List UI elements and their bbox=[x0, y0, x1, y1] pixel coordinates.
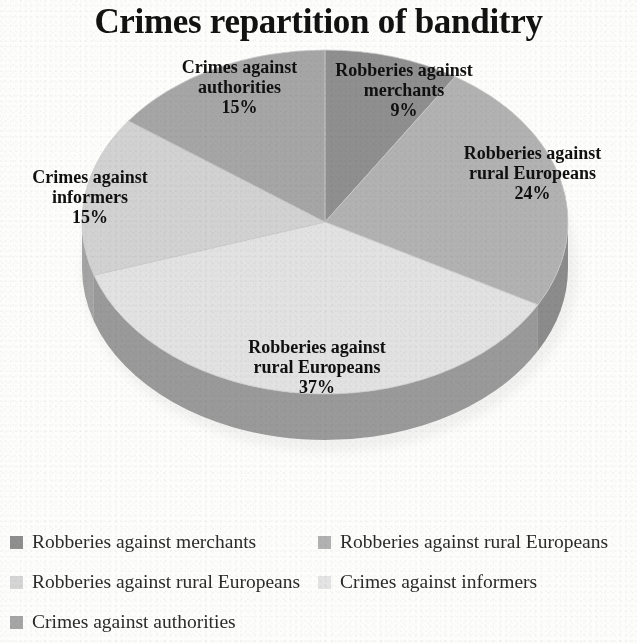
data-label-percent: 9% bbox=[306, 100, 502, 120]
legend-label: Crimes against informers bbox=[340, 572, 537, 592]
legend-item-robberies-against-rural-europeans-2[interactable]: Robberies against rural Europeans bbox=[10, 572, 300, 592]
data-label-percent: 37% bbox=[196, 377, 438, 397]
legend-label: Crimes against authorities bbox=[32, 612, 236, 632]
legend-row: Crimes against informers bbox=[318, 569, 537, 595]
legend-row: Robberies against rural Europeans bbox=[10, 569, 300, 595]
chart-legend: Robberies against merchants Robberies ag… bbox=[0, 525, 637, 644]
data-label-robberies-against-merchants: Robberies against merchants 9% bbox=[306, 60, 502, 120]
data-label-robberies-rural-europeans-37: Robberies against rural Europeans 37% bbox=[196, 337, 438, 397]
legend-item-crimes-against-authorities[interactable]: Crimes against authorities bbox=[10, 612, 236, 632]
data-label-percent: 15% bbox=[0, 207, 186, 227]
data-label-line1: Robberies against bbox=[335, 60, 473, 80]
pie-chart-figure: Crimes repartition of banditry Crimes ag… bbox=[0, 0, 637, 644]
legend-row: Crimes against authorities bbox=[10, 609, 236, 635]
legend-swatch-icon bbox=[10, 616, 23, 629]
legend-row: Robberies against merchants bbox=[10, 529, 256, 555]
legend-label: Robberies against merchants bbox=[32, 532, 256, 552]
legend-item-robberies-against-merchants[interactable]: Robberies against merchants bbox=[10, 532, 256, 552]
legend-item-robberies-against-rural-europeans-1[interactable]: Robberies against rural Europeans bbox=[318, 532, 608, 552]
legend-swatch-icon bbox=[10, 576, 23, 589]
data-label-line2: authorities bbox=[198, 77, 281, 97]
legend-swatch-icon bbox=[318, 536, 331, 549]
legend-label: Robberies against rural Europeans bbox=[340, 532, 608, 552]
legend-swatch-icon bbox=[318, 576, 331, 589]
data-label-line2: merchants bbox=[364, 80, 445, 100]
data-label-line2: rural Europeans bbox=[469, 163, 596, 183]
data-label-line1: Crimes against bbox=[182, 57, 298, 77]
data-label-crimes-against-informers: Crimes against informers 15% bbox=[0, 167, 186, 227]
data-label-line1: Robberies against bbox=[248, 337, 386, 357]
data-label-robberies-rural-europeans-24: Robberies against rural Europeans 24% bbox=[428, 143, 637, 203]
data-label-percent: 24% bbox=[428, 183, 637, 203]
data-label-line2: rural Europeans bbox=[253, 357, 380, 377]
legend-swatch-icon bbox=[10, 536, 23, 549]
legend-label: Robberies against rural Europeans bbox=[32, 572, 300, 592]
data-label-line1: Crimes against bbox=[32, 167, 148, 187]
data-label-line1: Robberies against bbox=[464, 143, 602, 163]
legend-row: Robberies against rural Europeans bbox=[318, 529, 608, 555]
data-label-line2: informers bbox=[52, 187, 128, 207]
legend-item-crimes-against-informers[interactable]: Crimes against informers bbox=[318, 572, 537, 592]
